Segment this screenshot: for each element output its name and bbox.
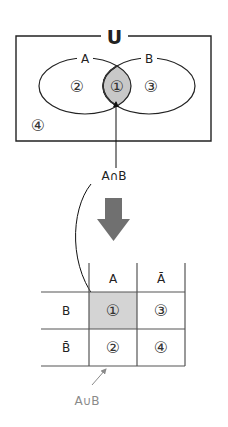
cell-b-a: ①: [106, 301, 120, 320]
cell-b-not-a: ③: [154, 301, 168, 320]
intersection-label: A∩B: [101, 169, 126, 183]
region-a-only: ②: [70, 77, 84, 96]
row-header-b: B: [62, 304, 70, 318]
col-header-not-a: Ā: [157, 272, 166, 286]
cell-not-b-not-a: ④: [154, 338, 168, 357]
down-arrow-icon: [97, 198, 130, 241]
union-label: A∪B: [74, 394, 99, 408]
venn-to-table-diagram: U A B ② ① ③ ④ A∩B A Ā B B̄ ①: [0, 0, 228, 427]
region-b-only: ③: [144, 77, 158, 96]
set-a-label: A: [81, 52, 90, 66]
region-outside: ④: [31, 116, 45, 135]
region-intersection: ①: [110, 77, 124, 96]
curved-pointer-to-cell: [76, 184, 100, 304]
union-pointer: [92, 369, 106, 385]
set-b-label: B: [145, 52, 153, 66]
row-header-not-b: B̄: [62, 341, 70, 355]
col-header-a: A: [109, 272, 118, 286]
universe-label: U: [107, 26, 122, 48]
cell-not-b-a: ②: [106, 338, 120, 357]
